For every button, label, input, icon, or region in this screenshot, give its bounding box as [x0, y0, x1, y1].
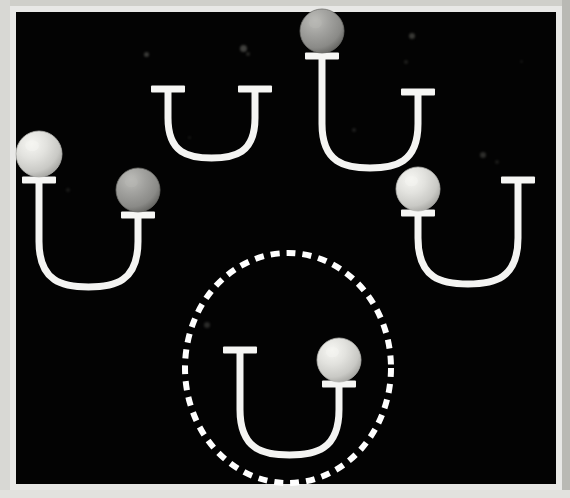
tube-top-right-sphere-left-highlight: [309, 18, 322, 29]
tube-top-right-left-cap: [305, 53, 339, 60]
tube-right-sphere-left: [396, 167, 440, 211]
tube-bottom-center-highlighted-sphere-right-body: [317, 338, 361, 382]
tube-top-right-right-cap: [401, 89, 435, 96]
tube-top-right-sphere-left-body: [300, 9, 344, 53]
tube-right-right-cap: [501, 177, 535, 184]
tube-bottom-center-highlighted-sphere-right: [317, 338, 361, 382]
highlight-ellipse: [185, 253, 391, 483]
tube-top-right: [305, 53, 435, 169]
tube-left-sphere-left-highlight: [25, 140, 39, 151]
tube-right-sphere-left-highlight: [405, 176, 418, 187]
tube-left-sphere-left-body: [16, 131, 62, 177]
tube-bottom-center-highlighted-left-cap: [223, 347, 257, 354]
tube-left-sphere-right-highlight: [125, 177, 138, 188]
tube-top-center-left-cap: [151, 86, 185, 93]
tube-top-center-right-cap: [238, 86, 272, 93]
tube-bottom-center-highlighted-sphere-right-highlight: [326, 347, 339, 358]
u-tube-scene: [0, 0, 570, 498]
tube-left-sphere-right-body: [116, 168, 160, 212]
tube-left-left-cap: [22, 177, 56, 184]
tube-right-sphere-left-body: [396, 167, 440, 211]
figure-stage: [0, 0, 570, 498]
tube-left-sphere-right: [116, 168, 160, 212]
sphere-layer: [16, 9, 440, 382]
tube-top-right-sphere-left: [300, 9, 344, 53]
tube-top-right-tube-path: [322, 56, 418, 168]
tube-left-right-cap: [121, 212, 155, 219]
tube-top-center-tube-path: [168, 89, 255, 158]
tube-top-center: [151, 86, 272, 159]
highlight-ellipse-layer: [185, 253, 391, 483]
diagram-panel: [0, 0, 570, 498]
tube-left-sphere-left: [16, 131, 62, 177]
